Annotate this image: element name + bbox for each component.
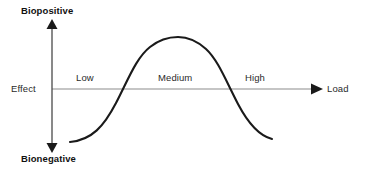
zone-label-low: Low: [76, 73, 94, 83]
axis-label-bionegative: Bionegative: [21, 154, 76, 164]
axis-label-biopositive: Biopositive: [21, 6, 73, 16]
biopositive-axis-arrow-icon: [47, 19, 58, 29]
axis-label-load: Load: [327, 84, 349, 94]
axis-label-effect: Effect: [11, 84, 36, 94]
hormesis-curve-diagram: Biopositive Bionegative Effect Load Low …: [0, 0, 365, 172]
diagram-canvas: [0, 0, 365, 172]
bionegative-axis-arrow-icon: [47, 143, 58, 153]
load-axis-arrow-icon: [311, 84, 323, 95]
zone-label-high: High: [245, 73, 265, 83]
zone-label-medium: Medium: [158, 73, 192, 83]
